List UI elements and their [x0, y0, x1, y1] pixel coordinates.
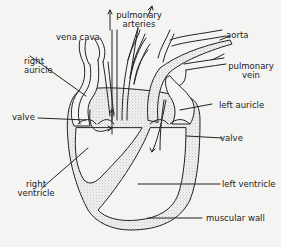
label-valve-right: valve — [220, 134, 243, 143]
label-right-ventricle: right ventricle — [14, 180, 58, 198]
vena-cava-left — [79, 40, 84, 64]
label-valve-left: valve — [12, 113, 35, 122]
label-pulmonary-arteries-line2: arteries — [114, 20, 164, 29]
label-right-ventricle-line2: ventricle — [14, 189, 58, 198]
label-muscular-wall: muscular wall — [206, 214, 265, 223]
pulmonary-artery-3 — [130, 38, 146, 78]
label-vena-cava: vena cava — [56, 33, 100, 42]
label-pulmonary-vein-line2: vein — [224, 71, 278, 80]
label-pulmonary-vein: pulmonary vein — [224, 62, 278, 80]
aorta-branch — [158, 30, 170, 58]
label-left-ventricle: left ventricle — [222, 180, 276, 189]
label-aorta: aorta — [226, 31, 248, 40]
label-pulmonary-arteries: pulmonary arteries — [114, 11, 164, 29]
label-right-auricle-line2: auricle — [24, 66, 53, 75]
label-left-auricle: left auricle — [219, 101, 264, 110]
label-right-auricle: right auricle — [24, 57, 53, 75]
